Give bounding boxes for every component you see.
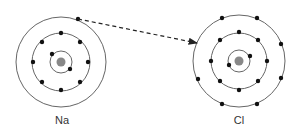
na-electron [40,80,44,84]
na-electron [68,67,72,71]
cl-electron [265,59,269,63]
na-electron [31,60,35,64]
cl-electron [220,102,224,106]
na-electron [50,52,54,56]
cl-electron [279,42,283,46]
atom-label-na: Na [55,114,69,126]
cl-electron [218,79,222,83]
cl-electron [237,88,241,92]
diagram-svg [0,0,297,136]
na-electron [40,40,44,44]
cl-electron [227,63,231,67]
cl-electron [255,102,259,106]
na-electron [59,31,63,35]
electron-transfer-arrow [78,19,197,43]
na-electron [86,60,90,64]
cl-electron [248,54,252,58]
cl-nucleus [235,57,244,66]
atom-label-cl: Cl [234,114,244,126]
ionic-bond-diagram: Na Cl [0,0,297,136]
cl-electron [220,16,224,20]
na-electron [59,88,63,92]
cl-electron [237,30,241,34]
cl-electron [196,77,200,81]
na-nucleus [57,58,66,67]
cl-electron [255,16,259,20]
na-electron [78,40,82,44]
cl-electron [209,59,213,63]
na-electron [78,80,82,84]
cl-electron [279,76,283,80]
cl-electron [218,38,222,42]
cl-electron [256,79,260,83]
cl-electron [256,38,260,42]
